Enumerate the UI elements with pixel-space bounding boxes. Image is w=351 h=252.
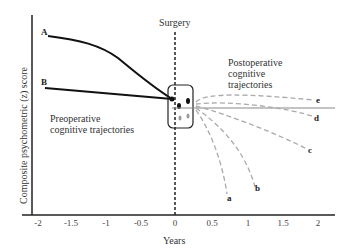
x-tick: 1.5 bbox=[277, 218, 288, 228]
x-tick: -0.5 bbox=[134, 218, 148, 228]
label-B: B bbox=[41, 77, 47, 87]
postop-label-3: trajectories bbox=[228, 79, 272, 90]
y-axis-label: Composite psychometric (z) score bbox=[18, 61, 29, 211]
postoperative-trajectories bbox=[196, 95, 315, 194]
x-tick: -2 bbox=[34, 218, 42, 228]
label-c: c bbox=[308, 145, 312, 155]
preop-label-1: Preoperative bbox=[50, 113, 101, 124]
label-e: e bbox=[316, 95, 320, 105]
x-tick: 0.5 bbox=[206, 218, 217, 228]
x-tick: 1 bbox=[246, 218, 251, 228]
surgery-label: Surgery bbox=[159, 17, 190, 28]
x-tick: -1 bbox=[102, 218, 110, 228]
trajectory-B bbox=[45, 88, 172, 99]
label-d: d bbox=[314, 113, 319, 123]
x-axis-label: Years bbox=[163, 235, 185, 246]
preop-label-2: cognitive trajectories bbox=[50, 124, 134, 135]
x-tick: 2 bbox=[316, 218, 321, 228]
postop-label-1: Postoperative bbox=[228, 57, 282, 68]
x-tick: -1.5 bbox=[64, 218, 78, 228]
label-A: A bbox=[41, 27, 48, 37]
label-b: b bbox=[255, 183, 260, 193]
label-a: a bbox=[227, 193, 232, 203]
x-tick: 0 bbox=[173, 218, 178, 228]
postop-label-2: cognitive bbox=[228, 68, 265, 79]
